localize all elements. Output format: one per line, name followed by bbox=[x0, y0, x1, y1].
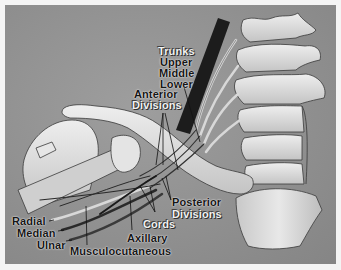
vertebra-c4 bbox=[241, 13, 316, 42]
label-musculocutaneous: Musculocutaneous bbox=[70, 246, 171, 257]
shoulder-humerus bbox=[18, 120, 140, 214]
cervical-spine bbox=[234, 13, 325, 249]
coracoid bbox=[111, 135, 140, 172]
label-radial: Radial bbox=[12, 216, 46, 227]
label-median: Median bbox=[17, 228, 56, 239]
vertebra-c7 bbox=[238, 106, 304, 132]
vertebra-c5 bbox=[236, 44, 320, 72]
label-posterior: Posterior bbox=[172, 197, 221, 208]
label-posterior-divisions: Divisions bbox=[172, 209, 222, 220]
vertebra-c6 bbox=[234, 74, 325, 104]
label-ulnar: Ulnar bbox=[37, 240, 66, 251]
label-cords: Cords bbox=[143, 219, 175, 230]
figure-frame: Trunks Upper Middle Lower Anterior Divis… bbox=[0, 0, 341, 270]
vertebra-t2 bbox=[245, 163, 304, 184]
label-anterior-divisions: Divisions bbox=[132, 100, 182, 111]
label-axillary: Axillary bbox=[127, 233, 168, 244]
vertebra-t1 bbox=[241, 135, 302, 160]
manubrium bbox=[236, 189, 322, 249]
